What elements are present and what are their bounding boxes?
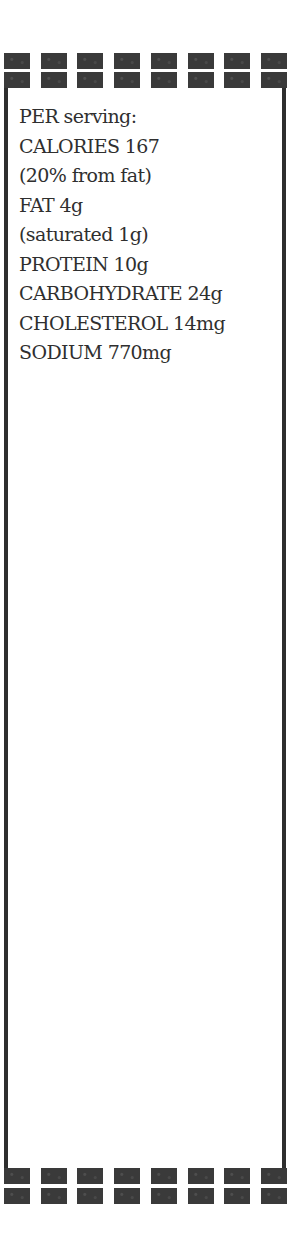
border-square xyxy=(261,1188,287,1204)
border-square xyxy=(114,53,140,69)
top-border-row-2 xyxy=(4,72,287,88)
border-square xyxy=(224,1168,250,1184)
border-square xyxy=(4,1188,30,1204)
border-square xyxy=(114,1168,140,1184)
nutrition-saturated-fat: (saturated 1g) xyxy=(19,220,279,250)
border-square xyxy=(4,72,30,88)
border-square xyxy=(114,1188,140,1204)
border-square xyxy=(41,1188,67,1204)
border-square xyxy=(151,53,177,69)
border-square xyxy=(4,53,30,69)
border-square xyxy=(77,1168,103,1184)
border-square xyxy=(224,1188,250,1204)
border-square xyxy=(188,53,214,69)
border-square xyxy=(114,72,140,88)
border-square xyxy=(41,1168,67,1184)
border-square xyxy=(261,72,287,88)
nutrition-carbohydrate: CARBOHYDRATE 24g xyxy=(19,279,279,309)
border-square xyxy=(261,1168,287,1184)
border-square xyxy=(77,1188,103,1204)
nutrition-protein: PROTEIN 10g xyxy=(19,250,279,280)
border-square xyxy=(261,53,287,69)
right-border-line xyxy=(282,88,286,1170)
border-square xyxy=(151,72,177,88)
border-square xyxy=(188,1188,214,1204)
nutrition-calories-from-fat: (20% from fat) xyxy=(19,161,279,191)
border-square xyxy=(77,72,103,88)
border-square xyxy=(4,1168,30,1184)
bottom-border-row-1 xyxy=(4,1168,287,1184)
border-square xyxy=(224,72,250,88)
nutrition-heading: PER serving: xyxy=(19,102,279,132)
border-square xyxy=(41,72,67,88)
left-border-line xyxy=(4,88,8,1170)
border-square xyxy=(151,1188,177,1204)
border-square xyxy=(77,53,103,69)
nutrition-cholesterol: CHOLESTEROL 14mg xyxy=(19,309,279,339)
nutrition-facts: PER serving: CALORIES 167 (20% from fat)… xyxy=(19,102,279,368)
border-square xyxy=(188,1168,214,1184)
border-square xyxy=(188,72,214,88)
border-square xyxy=(224,53,250,69)
nutrition-fat: FAT 4g xyxy=(19,191,279,221)
top-border-row-1 xyxy=(4,53,287,69)
nutrition-sodium: SODIUM 770mg xyxy=(19,338,279,368)
border-square xyxy=(151,1168,177,1184)
bottom-border-row-2 xyxy=(4,1188,287,1204)
nutrition-calories: CALORIES 167 xyxy=(19,132,279,162)
border-square xyxy=(41,53,67,69)
